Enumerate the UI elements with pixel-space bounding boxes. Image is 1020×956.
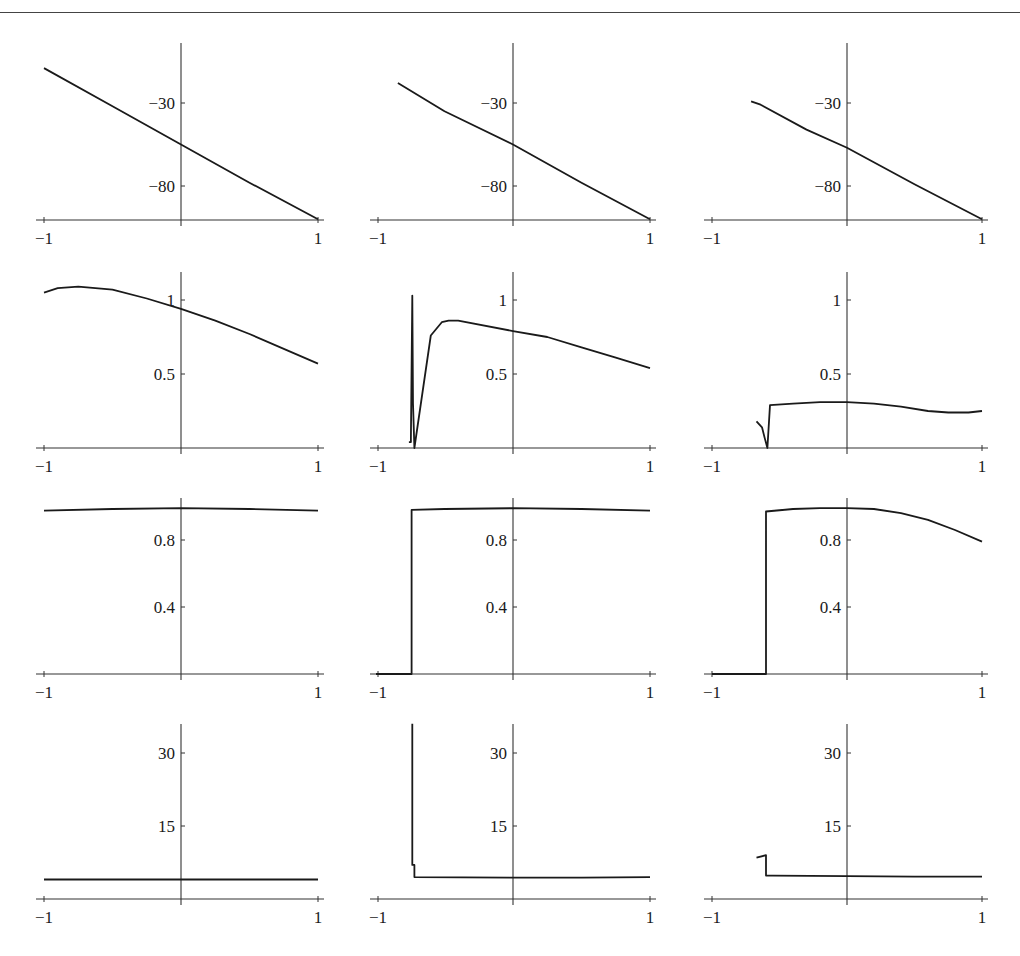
x-tick-label: 1 — [314, 908, 323, 927]
x-tick-label: 1 — [314, 457, 323, 476]
subplot-r3-c2: −110.80.4 — [369, 498, 656, 702]
subplot-r1-c3: −11−30−80 — [703, 43, 988, 248]
y-tick-label: 30 — [158, 744, 175, 763]
y-tick-label: 0.8 — [154, 531, 175, 550]
y-tick-label: 30 — [490, 744, 507, 763]
subplot-r2-c1: −1110.5 — [35, 272, 324, 476]
subplot-r4-c1: −113015 — [35, 724, 324, 927]
x-tick-label: −1 — [35, 908, 53, 927]
x-tick-label: 1 — [978, 229, 987, 248]
subplot-r2-c3: −1110.5 — [703, 272, 988, 476]
y-tick-label: 0.5 — [486, 365, 507, 384]
data-line — [409, 296, 650, 448]
y-tick-label: 0.4 — [486, 598, 508, 617]
x-tick-label: 1 — [646, 908, 655, 927]
x-tick-label: −1 — [369, 683, 387, 702]
y-tick-label: 1 — [499, 291, 508, 310]
x-tick-label: 1 — [646, 683, 655, 702]
y-tick-label: 0.5 — [154, 365, 175, 384]
x-tick-label: −1 — [369, 457, 387, 476]
x-tick-label: 1 — [646, 457, 655, 476]
subplot-r4-c2: −113015 — [369, 724, 656, 927]
x-tick-label: 1 — [978, 908, 987, 927]
y-tick-label: 15 — [824, 817, 841, 836]
y-tick-label: −80 — [148, 177, 175, 196]
y-tick-label: −30 — [148, 94, 175, 113]
y-tick-label: −80 — [480, 177, 507, 196]
data-line — [757, 855, 983, 876]
y-tick-label: 1 — [833, 291, 842, 310]
y-tick-label: 0.8 — [820, 531, 841, 550]
x-tick-label: −1 — [35, 683, 53, 702]
x-tick-label: −1 — [35, 229, 53, 248]
y-tick-label: 0.8 — [486, 531, 507, 550]
y-tick-label: 30 — [824, 744, 841, 763]
subplot-r2-c2: −1110.5 — [369, 272, 656, 476]
subplot-r1-c2: −11−30−80 — [369, 43, 656, 248]
x-tick-label: −1 — [703, 229, 721, 248]
y-tick-label: 0.4 — [154, 598, 176, 617]
data-line — [751, 101, 982, 219]
subplot-r4-c3: −113015 — [703, 724, 988, 927]
x-tick-label: 1 — [978, 683, 987, 702]
data-line — [757, 402, 983, 448]
y-tick-label: 0.5 — [820, 365, 841, 384]
x-tick-label: 1 — [314, 683, 323, 702]
subplot-r1-c1: −11−30−80 — [35, 43, 324, 248]
y-tick-label: 0.4 — [820, 598, 842, 617]
x-tick-label: −1 — [369, 229, 387, 248]
y-tick-label: −30 — [480, 94, 507, 113]
x-tick-label: −1 — [369, 908, 387, 927]
x-tick-label: −1 — [703, 683, 721, 702]
y-tick-label: −30 — [814, 94, 841, 113]
x-tick-label: −1 — [703, 457, 721, 476]
x-tick-label: −1 — [703, 908, 721, 927]
y-tick-label: 15 — [158, 817, 175, 836]
subplot-r3-c3: −110.80.4 — [703, 498, 988, 702]
subplot-r3-c1: −110.80.4 — [35, 498, 324, 702]
x-tick-label: 1 — [314, 229, 323, 248]
data-line — [398, 83, 650, 219]
x-tick-label: 1 — [646, 229, 655, 248]
data-line — [412, 724, 650, 878]
x-tick-label: 1 — [978, 457, 987, 476]
figure-grid: −11−30−80−11−30−80−11−30−80−1110.5−1110.… — [0, 0, 1020, 956]
y-tick-label: −80 — [814, 177, 841, 196]
y-tick-label: 15 — [490, 817, 507, 836]
x-tick-label: −1 — [35, 457, 53, 476]
